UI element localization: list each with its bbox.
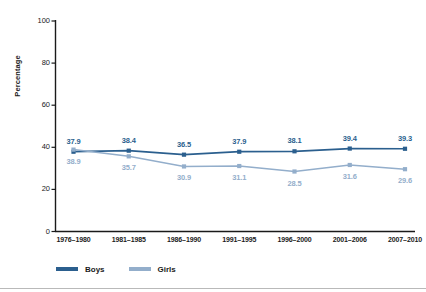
legend-label: Girls [158,265,176,274]
data-point-marker [237,150,241,154]
data-value-label: 38.9 [66,157,80,166]
legend-swatch-girls [129,267,151,271]
data-point-marker [71,148,75,152]
data-value-label: 30.9 [177,173,191,182]
data-point-marker [292,169,296,173]
bottom-divider [0,288,426,289]
data-point-marker [403,147,407,151]
x-tick-label: 1991–1995 [222,236,256,243]
legend-swatch-boys [56,267,78,271]
data-value-label: 36.5 [177,140,191,149]
data-value-label: 31.6 [343,172,357,181]
data-point-marker [348,163,352,167]
data-value-label: 39.4 [343,134,357,143]
legend-item-girls[interactable]: Girls [129,265,176,274]
legend-label: Boys [85,265,105,274]
data-value-label: 37.9 [66,137,80,146]
data-value-label: 37.9 [232,137,246,146]
legend-item-boys[interactable]: Boys [56,265,105,274]
chart-legend: BoysGirls [56,262,176,276]
x-axis-tick-labels: 1976–19801981–19851986–19901991–19951996… [0,236,426,250]
data-point-marker [237,164,241,168]
data-point-marker [348,146,352,150]
data-point-marker [127,149,131,153]
x-tick-label: 1986–1990 [167,236,201,243]
chart-figure: Percentage 020406080100 1976–19801981–19… [0,0,426,292]
x-tick-label: 2001–2006 [333,236,367,243]
data-value-label: 39.3 [398,134,412,143]
data-value-label: 35.7 [122,163,136,172]
data-value-label: 38.1 [287,136,301,145]
data-point-marker [182,164,186,168]
data-value-label: 29.6 [398,176,412,185]
x-tick-label: 1976–1980 [56,236,90,243]
data-point-marker [292,149,296,153]
data-point-marker [403,167,407,171]
data-value-label: 28.5 [287,179,301,188]
axes [52,20,416,232]
data-point-marker [182,153,186,157]
x-tick-label: 1981–1985 [112,236,146,243]
data-value-label: 38.4 [122,136,136,145]
x-tick-label: 1996–2000 [277,236,311,243]
data-value-label: 31.1 [232,173,246,182]
data-point-marker [127,154,131,158]
x-tick-label: 2007–2010 [388,236,422,243]
